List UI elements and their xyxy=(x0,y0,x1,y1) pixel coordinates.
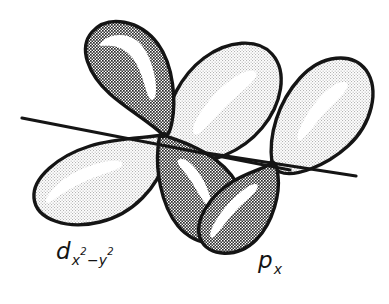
p-orbital-label: px xyxy=(258,249,281,272)
d-label-sub-exp-2: 2 xyxy=(107,246,114,257)
d-orbital-label: dx2−y2 xyxy=(56,240,113,263)
d-label-base: d xyxy=(56,238,71,264)
orbital-figure: dx2−y2 px xyxy=(0,0,389,304)
p-orbital-node xyxy=(269,160,275,166)
d-label-sub-exp-1: 2 xyxy=(80,246,87,257)
p-label-base: p xyxy=(258,247,273,273)
d-orbital-node xyxy=(160,132,166,138)
d-label-sub-minus-y: −y xyxy=(87,252,107,268)
p-label-sub-x: x xyxy=(274,261,283,277)
